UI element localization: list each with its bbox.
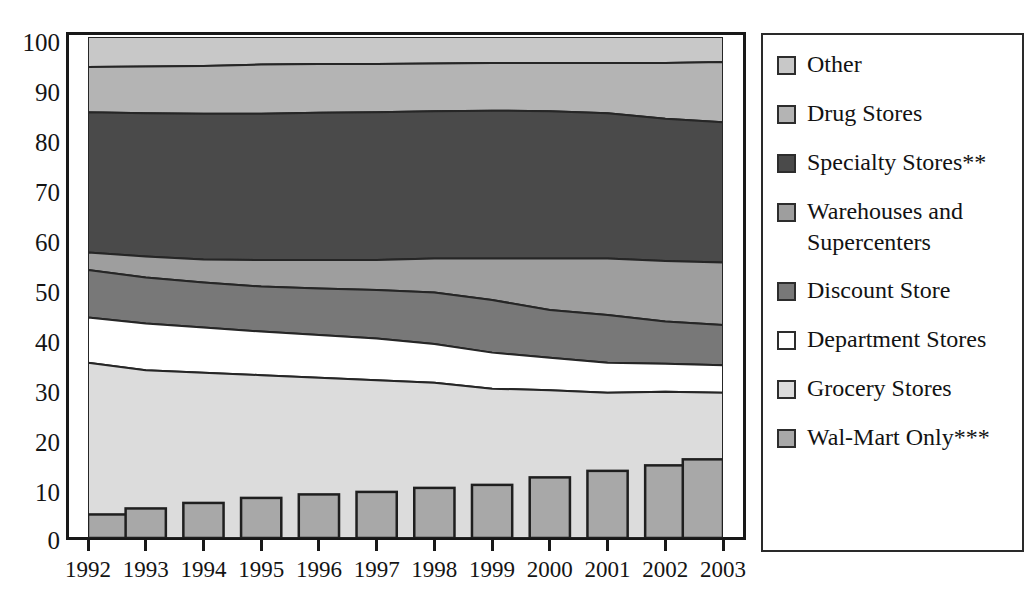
stacked-area-chart-figure: 100 90 80 70 60 50 40 30 20 10 0 1992199…: [0, 0, 1035, 599]
legend-item-label: Warehouses and Supercenters: [807, 196, 963, 258]
legend-swatch-discount-store: [777, 282, 796, 301]
overlay-bar: [472, 485, 512, 538]
legend-item[interactable]: Department Stores: [777, 324, 1023, 356]
legend-item-label: Grocery Stores: [807, 373, 952, 404]
legend-swatch-wal-mart-only: [777, 429, 796, 448]
legend-swatch-other: [777, 56, 796, 75]
legend-item[interactable]: Grocery Stores: [777, 373, 1023, 405]
legend-item-label: Specialty Stores**: [807, 147, 986, 178]
legend: OtherDrug StoresSpecialty Stores**Wareho…: [761, 33, 1024, 552]
legend-item-label: Department Stores: [807, 324, 986, 355]
overlay-bar: [357, 492, 397, 538]
overlay-bar: [126, 508, 166, 538]
overlay-bar: [530, 477, 570, 538]
legend-item[interactable]: Warehouses and Supercenters: [777, 196, 1023, 258]
x-tick: [664, 540, 667, 551]
x-tick: [144, 540, 147, 551]
x-tick-label: 2003: [688, 556, 758, 584]
legend-item[interactable]: Discount Store: [777, 275, 1023, 307]
y-tick-label: 90: [8, 80, 60, 105]
legend-swatch-specialty-stores: [777, 154, 796, 173]
legend-item[interactable]: Wal-Mart Only***: [777, 422, 1023, 454]
legend-item-label: Discount Store: [807, 275, 950, 306]
x-tick: [317, 540, 320, 551]
legend-item[interactable]: Drug Stores: [777, 98, 1023, 130]
x-tick: [722, 540, 725, 551]
legend-item[interactable]: Other: [777, 49, 1023, 81]
y-tick-label: 100: [8, 30, 60, 55]
overlay-bar: [645, 465, 685, 538]
overlay-bar: [683, 459, 723, 538]
x-tick: [87, 540, 90, 551]
legend-item-label: Other: [807, 49, 862, 80]
legend-swatch-department-stores: [777, 331, 796, 350]
x-tick: [375, 540, 378, 551]
legend-item[interactable]: Specialty Stores**: [777, 147, 1023, 179]
legend-swatch-warehouses-supercenters: [777, 203, 796, 222]
legend-item-label: Wal-Mart Only***: [807, 422, 990, 453]
y-tick-label: 20: [8, 430, 60, 455]
overlay-bar: [241, 498, 281, 538]
area-band: [88, 111, 723, 263]
overlay-bar: [183, 503, 223, 538]
plot-area: [88, 37, 723, 538]
overlay-bar: [88, 514, 128, 538]
overlay-bar: [414, 488, 454, 538]
x-tick: [260, 540, 263, 551]
x-tick: [433, 540, 436, 551]
legend-item-label: Drug Stores: [807, 98, 922, 129]
y-tick-label: 40: [8, 330, 60, 355]
y-tick-label: 70: [8, 180, 60, 205]
y-tick-label: 0: [8, 528, 60, 553]
y-axis: 100 90 80 70 60 50 40 30 20 10 0: [8, 0, 60, 599]
x-tick: [202, 540, 205, 551]
x-tick: [491, 540, 494, 551]
overlay-bar: [587, 471, 627, 538]
plot-svg: [88, 37, 723, 538]
y-tick-label: 10: [8, 480, 60, 505]
x-tick: [548, 540, 551, 551]
x-tick: [606, 540, 609, 551]
y-tick-label: 80: [8, 130, 60, 155]
overlay-bar: [299, 494, 339, 538]
y-tick-label: 60: [8, 230, 60, 255]
x-axis-labels: 1992199319941995199619971998199920002001…: [0, 556, 1035, 590]
y-tick-label: 50: [8, 280, 60, 305]
legend-swatch-grocery-stores: [777, 380, 796, 399]
y-tick-label: 30: [8, 380, 60, 405]
legend-swatch-drug-stores: [777, 105, 796, 124]
